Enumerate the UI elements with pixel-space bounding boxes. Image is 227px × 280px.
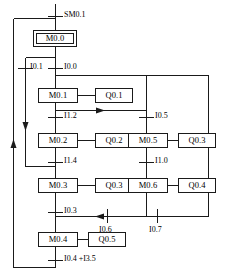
transition-label-i10: I1.0 <box>155 157 168 165</box>
action-box-q05[interactable]: Q0.5 <box>88 232 126 247</box>
step-box-m02[interactable]: M0.2 <box>38 133 78 148</box>
transition-label-i01: I0.1 <box>30 63 43 71</box>
transition-label-sm01: SM0.1 <box>64 11 86 19</box>
arrow-left-convergence <box>95 214 104 220</box>
step-box-m05[interactable]: M0.5 <box>128 133 168 148</box>
step-box-m06[interactable]: M0.6 <box>128 178 168 193</box>
transition-label-i07: I0.7 <box>149 226 162 234</box>
transition-label-i00: I0.0 <box>64 63 77 71</box>
arrow-down-inner-loop <box>23 122 29 131</box>
action-box-q04[interactable]: Q0.4 <box>178 178 216 193</box>
step-label-m00: M0.0 <box>36 33 74 44</box>
action-box-q01[interactable]: Q0.1 <box>95 88 133 103</box>
transition-label-i03: I0.3 <box>64 207 77 215</box>
sfc-diagram-canvas: M0.0 M0.1 Q0.1 M0.2 Q0.2 M0.3 Q0.3 M0.4 … <box>0 0 227 280</box>
step-box-m03[interactable]: M0.3 <box>38 178 78 193</box>
transition-label-i04-i35: I0.4 +I3.5 <box>64 255 96 263</box>
transition-label-i12: I1.2 <box>64 112 77 120</box>
step-box-m04[interactable]: M0.4 <box>38 232 78 247</box>
action-box-q03-right[interactable]: Q0.3 <box>178 133 216 148</box>
transition-label-i06: I0.6 <box>99 226 112 234</box>
transition-label-i05: I0.5 <box>155 112 168 120</box>
arrow-right-crosslink <box>96 108 105 114</box>
flow-arrows <box>11 108 212 220</box>
arrow-up-outer-loop <box>11 139 17 148</box>
transition-label-i14: I1.4 <box>64 157 77 165</box>
step-box-m00[interactable]: M0.0 <box>33 30 77 47</box>
step-box-m01[interactable]: M0.1 <box>38 88 78 103</box>
